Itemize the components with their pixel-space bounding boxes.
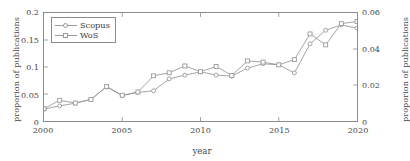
y-tick-label-right-0: 0 bbox=[362, 117, 392, 127]
data-point bbox=[214, 73, 218, 77]
y-tick-label-left-0: 0 bbox=[9, 117, 39, 127]
data-point bbox=[73, 101, 77, 105]
data-point bbox=[292, 71, 296, 75]
data-point bbox=[308, 32, 312, 36]
data-point bbox=[152, 74, 156, 78]
y-tick-label-left-0_2: 0.2 bbox=[9, 7, 39, 17]
data-point bbox=[199, 70, 203, 74]
data-point bbox=[245, 66, 249, 70]
y-tick-label-right-0_04: 0.04 bbox=[362, 44, 392, 54]
y-axis-label-right: proporion of publications bbox=[400, 17, 410, 122]
x-tick-label-2005: 2005 bbox=[102, 125, 142, 135]
legend-marker-wos bbox=[55, 30, 77, 40]
data-point bbox=[167, 71, 171, 75]
data-point bbox=[183, 64, 187, 68]
y-tick-label-right-0_06: 0.06 bbox=[362, 7, 392, 17]
data-point bbox=[261, 60, 265, 64]
data-point bbox=[120, 93, 124, 97]
y-tick-label-right-0_02: 0.02 bbox=[362, 80, 392, 90]
legend-label-scopus: Scopus bbox=[80, 20, 110, 30]
x-tick-label-2015: 2015 bbox=[259, 125, 299, 135]
legend-marker-scopus bbox=[55, 20, 77, 30]
data-point bbox=[183, 73, 187, 77]
data-point bbox=[308, 42, 312, 46]
data-point bbox=[167, 77, 171, 81]
data-point bbox=[355, 26, 357, 30]
x-tick-label-2010: 2010 bbox=[181, 125, 221, 135]
data-point bbox=[89, 97, 93, 101]
data-point bbox=[58, 104, 62, 108]
chart-legend: Scopus WoS bbox=[51, 17, 116, 43]
data-point bbox=[58, 98, 62, 102]
y-tick-label-left-0_1: 0.1 bbox=[9, 62, 39, 72]
data-point bbox=[136, 90, 140, 94]
data-point bbox=[44, 107, 46, 111]
data-point bbox=[324, 43, 328, 47]
data-point bbox=[355, 19, 357, 23]
y-tick-label-left-0_15: 0.15 bbox=[9, 35, 39, 45]
data-point bbox=[324, 28, 328, 32]
data-point bbox=[105, 84, 109, 88]
legend-label-wos: WoS bbox=[80, 30, 98, 40]
data-point bbox=[230, 73, 234, 77]
data-point bbox=[214, 64, 218, 68]
legend-item-wos: WoS bbox=[55, 30, 110, 40]
data-point bbox=[277, 63, 281, 67]
data-point bbox=[339, 22, 343, 26]
y-tick-label-left-0_05: 0.05 bbox=[9, 90, 39, 100]
data-point bbox=[292, 58, 296, 62]
data-point bbox=[245, 59, 249, 63]
legend-item-scopus: Scopus bbox=[55, 20, 110, 30]
data-point bbox=[152, 89, 156, 93]
x-axis-label: year bbox=[0, 146, 404, 156]
